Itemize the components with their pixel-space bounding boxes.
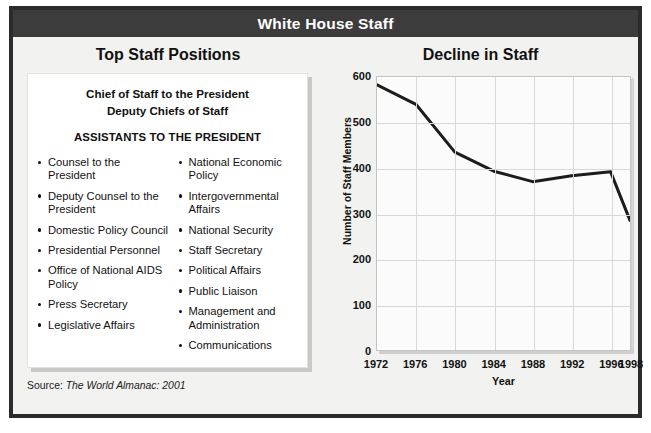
chief-of-staff-line: Chief of Staff to the President — [28, 86, 307, 103]
chart-gridline-horizontal — [377, 169, 630, 170]
list-item: Deputy Counsel to the President — [36, 190, 169, 217]
left-source-title: The World Almanac: 2001 — [66, 380, 186, 391]
list-item: Political Affairs — [177, 264, 302, 277]
chart-y-tick-label: 500 — [337, 116, 371, 128]
list-item: Public Liaison — [177, 285, 302, 298]
header-band: White House Staff — [13, 10, 638, 37]
bullet-icon — [38, 228, 41, 231]
list-item-label: Office of National AIDS Policy — [48, 264, 162, 289]
list-item-label: Communications — [189, 339, 272, 351]
list-item: Domestic Policy Council — [36, 224, 169, 237]
chart-y-tick-label: 300 — [337, 208, 371, 220]
list-item-label: Legislative Affairs — [48, 319, 135, 331]
chart-plot-wrapper: Number of Staff Members 0100200300400500… — [323, 70, 638, 360]
chart-gridline-horizontal — [377, 215, 630, 216]
list-item-label: Deputy Counsel to the President — [48, 190, 159, 215]
figure-white-house-staff: White House Staff Top Staff Positions Ch… — [0, 0, 651, 433]
bullet-icon — [38, 194, 41, 197]
bullet-icon — [179, 249, 182, 252]
list-item: National Economic Policy — [177, 156, 302, 183]
list-item: Staff Secretary — [177, 244, 302, 257]
chart-x-tick-label: 1972 — [364, 358, 388, 370]
bullet-icon — [179, 310, 182, 313]
list-item-label: Management and Administration — [189, 305, 276, 330]
chart-gridline-vertical — [573, 77, 574, 350]
bullet-icon — [179, 161, 182, 164]
list-item-label: Public Liaison — [189, 285, 258, 297]
positions-box: Chief of Staff to the President Deputy C… — [27, 73, 308, 368]
chart-gridline-vertical — [534, 77, 535, 350]
list-item: Intergovernmental Affairs — [177, 190, 302, 217]
list-item-label: Domestic Policy Council — [48, 224, 168, 236]
left-panel-title: Top Staff Positions — [13, 46, 323, 64]
assistants-column-right: National Economic Policy Intergovernment… — [169, 156, 302, 359]
chart-gridline-vertical — [455, 77, 456, 350]
chart-gridline-horizontal — [377, 306, 630, 307]
assistants-list-left: Counsel to the President Deputy Counsel … — [36, 156, 169, 332]
chart-title: Decline in Staff — [323, 46, 638, 64]
assistants-subheading: ASSISTANTS TO THE PRESIDENT — [28, 131, 307, 143]
top-staff-positions-panel: Top Staff Positions Chief of Staff to th… — [13, 37, 323, 414]
chart-x-tick-label: 1984 — [481, 358, 505, 370]
chart-gridline-vertical — [495, 77, 496, 350]
assistants-columns: Counsel to the President Deputy Counsel … — [28, 156, 307, 359]
list-item: Legislative Affairs — [36, 319, 169, 332]
chart-y-tick-label: 0 — [337, 345, 371, 357]
assistants-list-right: National Economic Policy Intergovernment… — [177, 156, 302, 352]
chart-x-tick-label: 1992 — [560, 358, 584, 370]
list-item-label: Counsel to the President — [48, 156, 120, 181]
list-item: Office of National AIDS Policy — [36, 264, 169, 291]
chart-x-tick-label: 1976 — [403, 358, 427, 370]
bullet-icon — [179, 344, 182, 347]
bullet-icon — [38, 161, 41, 164]
chart-gridline-vertical — [416, 77, 417, 350]
list-item-label: Presidential Personnel — [48, 244, 160, 256]
bullet-icon — [38, 249, 41, 252]
list-item: Press Secretary — [36, 298, 169, 311]
figure-body: Top Staff Positions Chief of Staff to th… — [13, 37, 638, 414]
chart-x-tick-label: 1988 — [521, 358, 545, 370]
bullet-icon — [179, 269, 182, 272]
chart-y-tick-label: 200 — [337, 253, 371, 265]
deputy-chiefs-line: Deputy Chiefs of Staff — [28, 103, 307, 120]
chart-gridline-horizontal — [377, 123, 630, 124]
chart-y-tick-label: 400 — [337, 162, 371, 174]
bullet-icon — [38, 269, 41, 272]
bullet-icon — [179, 228, 182, 231]
chart-x-axis-label: Year — [376, 375, 631, 387]
list-item: Counsel to the President — [36, 156, 169, 183]
chart-x-tick-label: 1980 — [442, 358, 466, 370]
chart-gridline-horizontal — [377, 260, 630, 261]
list-item: Communications — [177, 339, 302, 352]
list-item-label: Political Affairs — [189, 264, 262, 276]
chart-y-tick-label: 600 — [337, 70, 371, 82]
left-source-note: Source: The World Almanac: 2001 — [27, 380, 185, 391]
list-item-label: Staff Secretary — [189, 244, 263, 256]
list-item-label: National Economic Policy — [189, 156, 282, 181]
chart-y-tick-label: 100 — [337, 299, 371, 311]
bullet-icon — [38, 323, 41, 326]
list-item-label: Press Secretary — [48, 298, 128, 310]
chart-series-line — [377, 77, 630, 350]
chart-gridline-vertical — [612, 77, 613, 350]
list-item-label: National Security — [189, 224, 274, 236]
decline-in-staff-panel: Decline in Staff Number of Staff Members… — [323, 37, 638, 414]
bullet-icon — [38, 303, 41, 306]
list-item-label: Intergovernmental Affairs — [189, 190, 279, 215]
chart-gridline-vertical — [632, 77, 633, 350]
chart-y-axis-ticks: 0100200300400500600 — [333, 70, 371, 360]
list-item: Management and Administration — [177, 305, 302, 332]
page-title: White House Staff — [13, 10, 638, 37]
assistants-column-left: Counsel to the President Deputy Counsel … — [36, 156, 169, 359]
list-item: National Security — [177, 224, 302, 237]
left-source-prefix: Source: — [27, 380, 63, 391]
bullet-icon — [179, 194, 182, 197]
chart-x-tick-label: 1998 — [619, 358, 643, 370]
bullet-icon — [179, 289, 182, 292]
chart-plot-area — [376, 76, 631, 351]
list-item: Presidential Personnel — [36, 244, 169, 257]
